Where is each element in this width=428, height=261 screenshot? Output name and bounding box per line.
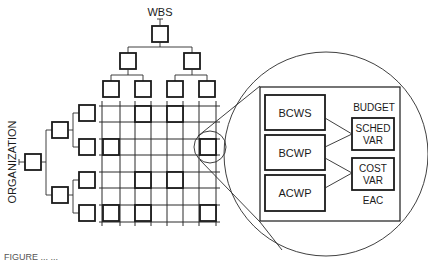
- wbs-level3-node: [199, 81, 215, 97]
- cost-var-label-line2: VAR: [363, 175, 383, 186]
- cost-account-cell: [135, 205, 151, 221]
- organization-tree: [25, 105, 95, 221]
- budget-label: BUDGET: [353, 102, 395, 113]
- org-level3-node: [79, 172, 95, 188]
- wbs-level3-node: [167, 81, 183, 97]
- wbs-tree: [103, 26, 215, 97]
- wbs-level2-node: [120, 53, 136, 69]
- wbs-level3-node: [135, 81, 151, 97]
- wbs-level2-node: [184, 53, 200, 69]
- cost-account-cell: [103, 139, 119, 155]
- cost-account-cell: [135, 106, 151, 122]
- bcws-label: BCWS: [279, 107, 312, 119]
- org-level2-node: [52, 187, 68, 203]
- wbs-level3-node: [103, 81, 119, 97]
- acwp-label: ACWP: [279, 187, 312, 199]
- cost-account-cell: [103, 205, 119, 221]
- cost-account-cell: [167, 106, 183, 122]
- wbs-label: WBS: [147, 6, 172, 18]
- figure-caption: FIGURE ... ...: [4, 252, 58, 261]
- org-level3-node: [79, 139, 95, 155]
- cost-account-cell: [135, 172, 151, 188]
- eac-label: EAC: [363, 195, 384, 206]
- cost-account-cell-highlighted: [200, 139, 216, 155]
- bcwp-label: BCWP: [279, 147, 312, 159]
- responsibility-matrix-grid: [99, 101, 220, 226]
- wbs-root-node: [152, 26, 168, 42]
- sched-var-label-line1: SCHED: [355, 123, 390, 134]
- org-level2-node: [52, 122, 68, 138]
- org-level3-node: [79, 105, 95, 121]
- wbs-organization-matrix-diagram: WBS ORGANIZATION: [0, 0, 428, 261]
- org-level3-node: [79, 205, 95, 221]
- sched-var-label-line2: VAR: [363, 135, 383, 146]
- organization-label: ORGANIZATION: [6, 120, 18, 203]
- cost-account-cell: [200, 205, 216, 221]
- cost-account-cell: [167, 172, 183, 188]
- cost-var-label-line1: COST: [359, 163, 387, 174]
- org-root-node: [25, 154, 41, 170]
